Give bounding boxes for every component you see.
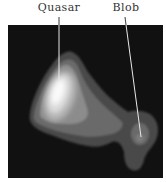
quasar-blob-image — [0, 0, 166, 182]
blob-center — [136, 134, 144, 142]
blob-pointer-line-top — [125, 17, 126, 25]
